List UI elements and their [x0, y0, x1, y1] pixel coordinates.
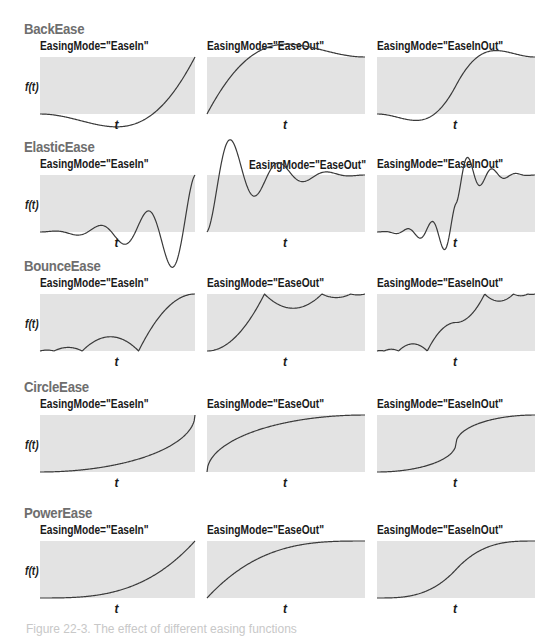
easing-mode-label: EasingMode="EaseIn": [40, 157, 149, 171]
easing-plot: [377, 175, 535, 232]
easing-function-title: CircleEase: [24, 378, 89, 395]
easing-plot: [40, 175, 195, 232]
figure-caption: Figure 22-3. The effect of different eas…: [26, 622, 297, 636]
x-axis-label: t: [283, 118, 287, 132]
x-axis-label: t: [453, 355, 457, 369]
plot-area: [207, 541, 365, 598]
x-axis-label: t: [115, 118, 119, 132]
easing-mode-label: EasingMode="EaseInOut": [377, 276, 503, 290]
easing-plot: [377, 294, 535, 351]
x-axis-label: t: [453, 236, 457, 250]
easing-plot: [40, 541, 195, 598]
plot-area: [207, 57, 365, 114]
easing-function-title: BackEase: [24, 20, 84, 37]
easing-mode-label: EasingMode="EaseInOut": [377, 397, 503, 411]
x-axis-label: t: [115, 236, 119, 250]
x-axis-label: t: [453, 476, 457, 490]
plot-area: [40, 541, 195, 598]
easing-plot: [377, 541, 535, 598]
y-axis-label: f(t): [25, 317, 39, 331]
easing-function-title: ElasticEase: [24, 138, 94, 155]
plot-area: [207, 175, 365, 232]
plot-area: [40, 175, 195, 232]
plot-area: [207, 294, 365, 351]
easing-mode-label: EasingMode="EaseOut": [207, 397, 324, 411]
x-axis-label: t: [115, 476, 119, 490]
x-axis-label: t: [115, 602, 119, 616]
easing-plot: [40, 57, 195, 114]
easing-plot: [377, 57, 535, 114]
easing-plot: [377, 415, 535, 472]
easing-mode-label: EasingMode="EaseInOut": [377, 39, 503, 53]
easing-mode-label: EasingMode="EaseIn": [40, 397, 149, 411]
plot-area: [207, 415, 365, 472]
x-axis-label: t: [283, 476, 287, 490]
x-axis-label: t: [283, 355, 287, 369]
easing-mode-label: EasingMode="EaseOut": [207, 276, 324, 290]
easing-plot: [40, 415, 195, 472]
y-axis-label: f(t): [25, 564, 39, 578]
easing-plot: [207, 541, 365, 598]
x-axis-label: t: [453, 602, 457, 616]
y-axis-label: f(t): [25, 80, 39, 94]
easing-mode-label: EasingMode="EaseIn": [40, 276, 149, 290]
x-axis-label: t: [283, 602, 287, 616]
plot-area: [40, 415, 195, 472]
easing-function-title: PowerEase: [24, 504, 92, 521]
easing-plot: [207, 57, 365, 114]
easing-mode-label: EasingMode="EaseInOut": [377, 157, 503, 171]
x-axis-label: t: [115, 355, 119, 369]
easing-mode-label: EasingMode="EaseInOut": [377, 523, 503, 537]
y-axis-label: f(t): [25, 438, 39, 452]
plot-area: [40, 57, 195, 114]
easing-function-title: BounceEase: [24, 257, 101, 274]
easing-plot: [40, 294, 195, 351]
x-axis-label: t: [453, 118, 457, 132]
easing-mode-label: EasingMode="EaseIn": [40, 523, 149, 537]
plot-area: [40, 294, 195, 351]
y-axis-label: f(t): [25, 198, 39, 212]
easing-plot: [207, 294, 365, 351]
easing-mode-label: EasingMode="EaseIn": [40, 39, 149, 53]
x-axis-label: t: [283, 236, 287, 250]
easing-plot: [207, 415, 365, 472]
easing-plot: [207, 175, 365, 232]
easing-mode-label: EasingMode="EaseOut": [249, 158, 366, 172]
easing-mode-label: EasingMode="EaseOut": [207, 523, 324, 537]
